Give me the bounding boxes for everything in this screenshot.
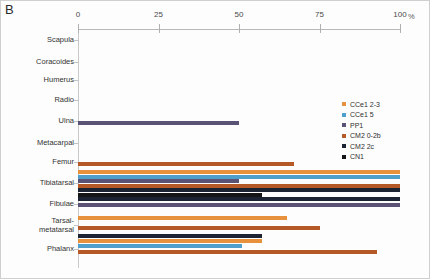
legend-label: PP1 [350, 122, 363, 129]
x-tick-mark [78, 24, 79, 33]
category-label: Femur [2, 158, 74, 167]
x-tick-label: 0 [76, 10, 80, 19]
category-label: Radio [2, 96, 74, 105]
bar [78, 244, 242, 248]
x-tick-mark [400, 24, 401, 33]
figure-panel: B 0255075100 % ScapulaCoracoidesHumerusR… [0, 0, 430, 279]
category-label: Fibulae [2, 200, 74, 209]
y-tick-mark [74, 62, 79, 63]
legend-item[interactable]: CN1 [342, 152, 381, 163]
x-tick-mark [320, 24, 321, 33]
bar [78, 170, 400, 174]
bar [78, 216, 287, 220]
legend-item[interactable]: CCe1 5 [342, 110, 381, 121]
bar [78, 197, 400, 201]
legend-swatch-icon [342, 134, 346, 138]
bar [78, 162, 294, 166]
legend-item[interactable]: CM2 0-2b [342, 131, 381, 142]
category-axis-labels: ScapulaCoracoidesHumerusRadioUlnaMetacar… [0, 0, 74, 279]
category-label: Tibiatarsal [2, 179, 74, 188]
bar [78, 121, 239, 125]
category-label: Phalanx [2, 245, 74, 254]
legend-label: CCe1 2-3 [350, 101, 380, 108]
category-label: Tarsal-metatarsal [2, 217, 74, 234]
bar [78, 188, 400, 192]
category-label: Scapula [2, 36, 74, 45]
bar [78, 226, 320, 230]
y-tick-mark [74, 100, 79, 101]
legend-swatch-icon [342, 102, 346, 106]
bar [78, 239, 262, 243]
legend-label: CN1 [350, 153, 364, 160]
legend-swatch-icon [342, 155, 346, 159]
category-label: Humerus [2, 76, 74, 85]
legend-label: CM2 0-2b [350, 132, 381, 139]
x-tick-mark [239, 24, 240, 33]
x-tick-mark [159, 24, 160, 33]
x-tick-label: 25 [154, 10, 163, 19]
bar [78, 234, 262, 238]
x-tick-label: 75 [315, 10, 324, 19]
bar [78, 179, 239, 183]
y-tick-mark [74, 40, 79, 41]
legend-item[interactable]: CCe1 2-3 [342, 99, 381, 110]
y-axis-line [78, 29, 79, 268]
legend-item[interactable]: PP1 [342, 120, 381, 131]
category-label: Metacarpal [2, 139, 74, 148]
legend-item[interactable]: CM2 2c [342, 141, 381, 152]
legend-swatch-icon [342, 113, 346, 117]
y-tick-mark [74, 143, 79, 144]
category-label: Coracoides [2, 58, 74, 67]
legend-swatch-icon [342, 123, 346, 127]
x-tick-label: 50 [235, 10, 244, 19]
category-label: Ulna [2, 117, 74, 126]
y-tick-mark [74, 80, 79, 81]
legend: CCe1 2-3CCe1 5PP1CM2 0-2bCM2 2cCN1 [342, 99, 381, 162]
legend-label: CCe1 5 [350, 111, 374, 118]
legend-swatch-icon [342, 144, 346, 148]
bar [78, 250, 377, 254]
x-axis-unit-label: % [408, 12, 415, 21]
legend-label: CM2 2c [350, 143, 374, 150]
x-tick-label: 100 [393, 10, 406, 19]
bar [78, 203, 400, 207]
